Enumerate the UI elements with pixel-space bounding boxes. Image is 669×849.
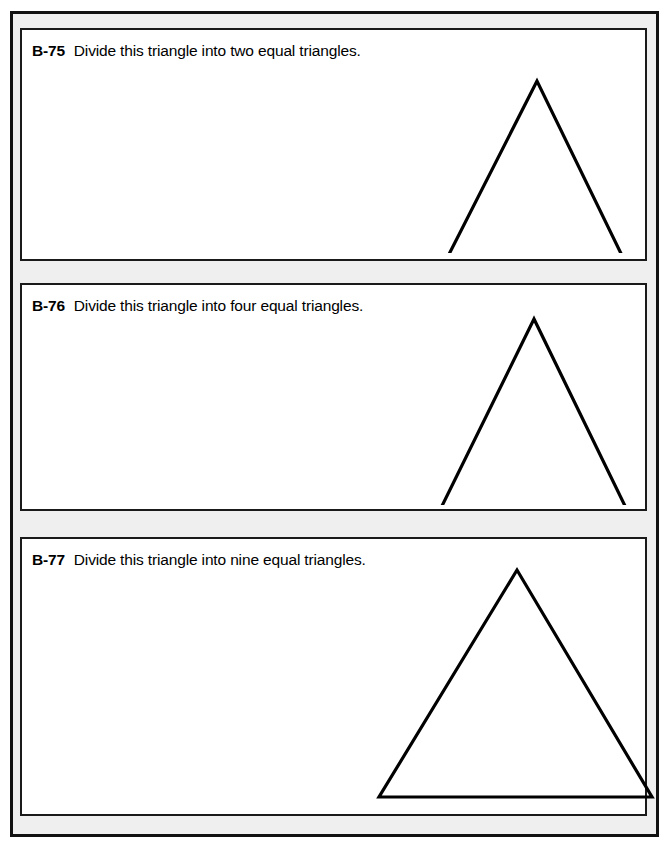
problem-number-b77: B-77 [32,551,65,568]
problem-number-b76: B-76 [32,297,65,314]
triangle-outline [379,570,652,797]
problem-prompt-b77: B-77Divide this triangle into nine equal… [32,550,366,569]
triangle-outline [440,81,630,253]
problem-panel-b76[interactable]: B-76Divide this triangle into four equal… [20,283,647,511]
problem-prompt-b76: B-76Divide this triangle into four equal… [32,296,363,315]
problem-panel-b75[interactable]: B-75Divide this triangle into two equal … [20,28,647,261]
problem-text-b77: Divide this triangle into nine equal tri… [74,551,366,568]
triangle-outline [440,319,627,505]
triangle-figure-b76 [410,290,645,505]
triangle-figure-b75 [410,38,645,253]
problem-text-b76: Divide this triangle into four equal tri… [74,297,363,314]
problem-prompt-b75: B-75Divide this triangle into two equal … [32,41,361,60]
page-border-frame: B-75Divide this triangle into two equal … [10,11,659,837]
problem-text-b75: Divide this triangle into two equal tria… [74,42,361,59]
problem-number-b75: B-75 [32,42,65,59]
triangle-figure-b77 [350,549,665,804]
worksheet-page: B-75Divide this triangle into two equal … [0,0,669,849]
problem-panel-b77[interactable]: B-77Divide this triangle into nine equal… [20,537,647,816]
